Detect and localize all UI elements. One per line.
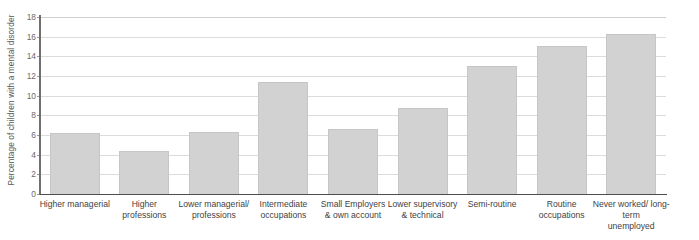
bar[interactable] [398,108,448,194]
bar-slot [249,17,319,194]
bar-slot [40,17,110,194]
bar-slot [457,17,527,194]
bar-slot [527,17,597,194]
x-category-label-line: Never worked/ long-term [590,199,672,221]
x-axis-category-labels: Higher managerialHigherprofessionsLower … [40,199,666,239]
x-axis-line [40,194,667,196]
bar-slot [388,17,458,194]
bar-slot [318,17,388,194]
bar-slot [110,17,180,194]
x-category-label: Never worked/ long-termunemployed [590,199,672,233]
bar[interactable] [50,133,100,194]
bar[interactable] [606,34,656,194]
x-category-label-line: & technical [382,210,464,221]
bar[interactable] [119,151,169,194]
bar[interactable] [467,66,517,194]
bar-slot [179,17,249,194]
bar[interactable] [537,46,587,194]
bar[interactable] [189,132,239,194]
bar-chart: Percentage of children with a mental dis… [0,0,699,240]
y-axis-tick-marks [0,17,44,194]
x-category-label-line: unemployed [590,221,672,232]
plot-area [40,17,666,194]
y-axis-line [39,15,41,195]
bar[interactable] [328,129,378,194]
bar[interactable] [258,82,308,194]
bar-slot [596,17,666,194]
